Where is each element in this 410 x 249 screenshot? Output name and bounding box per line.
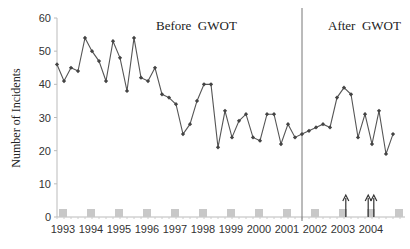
x-tick-label: 2004	[359, 223, 383, 235]
incidents-series	[55, 36, 395, 156]
y-axis-label: Number of Incidents	[9, 68, 23, 168]
x-tick-label: 2000	[247, 223, 271, 235]
y-tick-label: 20	[39, 145, 51, 157]
y-tick-label: 30	[39, 112, 51, 124]
y-tick-label: 50	[39, 45, 51, 57]
x-tick-label: 1993	[51, 223, 75, 235]
x-tick-label: 1994	[79, 223, 103, 235]
x-tick-label: 1998	[191, 223, 215, 235]
after-gwot-label: After GWOT	[328, 18, 401, 33]
x-tick-label: 1995	[107, 223, 131, 235]
baseline-square-markers	[59, 209, 403, 217]
x-tick-label: 1997	[163, 223, 187, 235]
incidents-line-chart: 0102030405060 19931994199519961997199819…	[0, 0, 410, 249]
y-tick-label: 60	[39, 12, 51, 24]
x-tick-label: 1999	[219, 223, 243, 235]
x-tick-label: 2001	[275, 223, 299, 235]
x-tick-label: 1996	[135, 223, 159, 235]
y-tick-label: 40	[39, 78, 51, 90]
x-axis: 1993199419951996199719981999200020012002…	[51, 217, 405, 235]
x-tick-label: 2002	[303, 223, 327, 235]
y-axis: 0102030405060	[39, 12, 57, 223]
y-tick-label: 0	[45, 211, 51, 223]
before-gwot-label: Before GWOT	[156, 18, 237, 33]
y-tick-label: 10	[39, 178, 51, 190]
x-tick-label: 2003	[331, 223, 355, 235]
